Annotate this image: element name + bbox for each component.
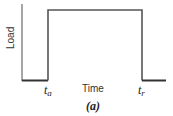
- figure-caption: (a): [86, 99, 100, 113]
- y-axis-label: Load: [5, 27, 16, 49]
- marker-tr-subscript: r: [141, 88, 145, 98]
- load-time-diagram: Load ta Time tr (a): [0, 0, 173, 116]
- x-axis-label: Time: [82, 83, 104, 94]
- marker-tr: tr: [138, 83, 145, 98]
- load-pulse: [48, 10, 142, 81]
- marker-ta: ta: [44, 83, 52, 98]
- marker-ta-subscript: a: [47, 88, 52, 98]
